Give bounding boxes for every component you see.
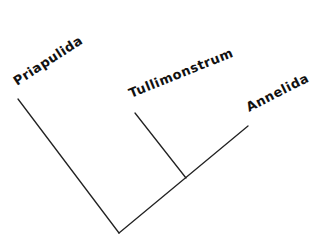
branch-tullimonstrum <box>135 113 186 178</box>
cladogram: Priapulida Tullimonstrum Annelida <box>0 0 324 242</box>
taxon-label-annelida: Annelida <box>244 70 312 114</box>
taxon-label-tullimonstrum: Tullimonstrum <box>127 45 236 101</box>
taxon-label-priapulida: Priapulida <box>10 33 85 89</box>
branch-priapulida <box>18 99 119 233</box>
branch-root-to-annelida <box>119 126 248 233</box>
cladogram-svg: Priapulida Tullimonstrum Annelida <box>0 0 324 242</box>
